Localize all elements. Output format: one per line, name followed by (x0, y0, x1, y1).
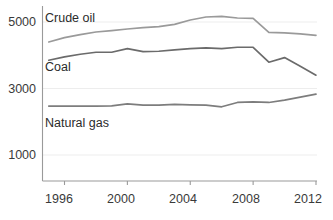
ytick-label-1000: 1000 (0, 148, 36, 162)
gridlines (43, 22, 318, 155)
line-chart: 5000 3000 1000 1996 2000 2004 2008 2012 … (0, 0, 333, 220)
series-line-coal (49, 47, 316, 75)
ytick-label-5000: 5000 (0, 15, 36, 29)
series-label-crude-oil: Crude oil (45, 11, 95, 25)
series-line-natural-gas (49, 94, 316, 107)
xtick-label-2012: 2012 (286, 192, 330, 206)
ytick-label-3000: 3000 (0, 82, 36, 96)
series-label-coal: Coal (45, 60, 71, 74)
xtick-label-2004: 2004 (161, 192, 205, 206)
xtick-label-2000: 2000 (99, 192, 143, 206)
xtick-label-2008: 2008 (224, 192, 268, 206)
data-series-group (49, 16, 316, 106)
plot-area (0, 0, 333, 220)
series-label-natural-gas: Natural gas (45, 116, 109, 130)
xtick-label-1996: 1996 (37, 192, 81, 206)
